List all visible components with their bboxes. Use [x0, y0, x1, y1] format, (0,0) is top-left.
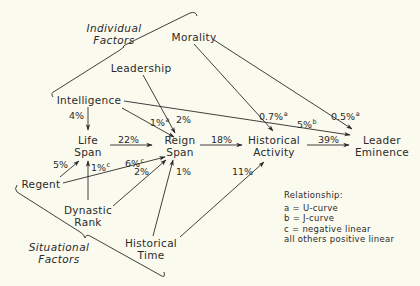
legend-item: b = J-curve [284, 213, 394, 224]
path-value: 11% [232, 166, 253, 177]
node-line: Historical [120, 237, 182, 249]
path-label-intelligence-life: 4% [69, 111, 84, 121]
node-line: Eminence [354, 146, 410, 158]
node-leader-eminence: Leader Eminence [354, 134, 410, 158]
node-line: Leader [354, 134, 410, 146]
path-value: 0.7% [259, 111, 283, 122]
node-line: Activity [244, 146, 304, 158]
path-label-life-reign: 22% [118, 135, 139, 145]
group-label-individual-factors: Individual Factors [82, 22, 146, 46]
group-label-line: Factors [24, 253, 94, 265]
path-value: 39% [318, 134, 339, 145]
path-label-dynastic-life: 1%c [91, 160, 110, 173]
path-value: 1% [91, 162, 106, 173]
path-label-leadership-reign: 2% [176, 115, 191, 125]
node-historical-activity: Historical Activity [244, 134, 304, 158]
path-label-activity-eminence: 39% [318, 135, 339, 145]
relationship-legend: Relationship: a = U-curve b = J-curve c … [284, 190, 394, 245]
node-dynastic-rank: Dynastic Rank [62, 204, 114, 228]
path-value: 22% [118, 134, 139, 145]
node-regent: Regent [20, 178, 62, 190]
node-line: Span [70, 146, 106, 158]
node-historical-time: Historical Time [120, 237, 182, 261]
node-morality: Morality [164, 31, 224, 43]
node-line: Dynastic [62, 204, 114, 216]
node-leadership: Leadership [108, 62, 174, 74]
relationship-type: c [107, 161, 111, 169]
group-label-situational-factors: Situational Factors [24, 241, 94, 265]
path-label-intelligence-eminence: 5%b [297, 117, 317, 130]
legend-item: c = negative linear [284, 224, 394, 235]
node-intelligence: Intelligence [55, 94, 123, 106]
relationship-type: a [356, 110, 360, 118]
path-value: 4% [69, 110, 84, 121]
path-value: 2% [176, 114, 191, 125]
node-life-span: Life Span [70, 134, 106, 158]
path-value: 5% [297, 119, 312, 130]
path-value: 18% [211, 134, 232, 145]
path-label-time-reign: 1% [176, 167, 191, 177]
group-label-line: Individual [82, 22, 146, 34]
group-label-line: Factors [82, 34, 146, 46]
relationship-type: b [313, 118, 317, 126]
path-value: 2% [134, 166, 149, 177]
path-label-morality-eminence: 0.5%a [331, 109, 360, 122]
path-label-morality-activity: 0.7%a [259, 109, 288, 122]
path-label-regent-life: 5% [53, 160, 68, 170]
legend-item: all others positive linear [284, 234, 394, 245]
node-line: Span [162, 146, 198, 158]
relationship-type: c [141, 157, 145, 165]
node-line: Rank [62, 216, 114, 228]
path-label-intelligence-reign: 1%a [150, 115, 170, 128]
node-reign-span: Reign Span [162, 134, 198, 158]
node-line: Historical [244, 134, 304, 146]
legend-title: Relationship: [284, 190, 394, 201]
path-value: 5% [53, 159, 68, 170]
path-diagram: Individual Factors Situational Factors M… [0, 0, 420, 286]
relationship-type: a [166, 116, 170, 124]
node-line: Life [70, 134, 106, 146]
path-label-reign-activity: 18% [211, 135, 232, 145]
path-value: 0.5% [331, 111, 355, 122]
path-value: 1% [176, 166, 191, 177]
path-label-dynastic-reign: 2% [134, 167, 149, 177]
group-label-line: Situational [24, 241, 94, 253]
node-line: Time [120, 249, 182, 261]
relationship-type: a [284, 110, 288, 118]
path-label-time-activity: 11% [232, 167, 253, 177]
legend-item: a = U-curve [284, 203, 394, 214]
node-line: Reign [162, 134, 198, 146]
path-value: 1% [150, 117, 165, 128]
